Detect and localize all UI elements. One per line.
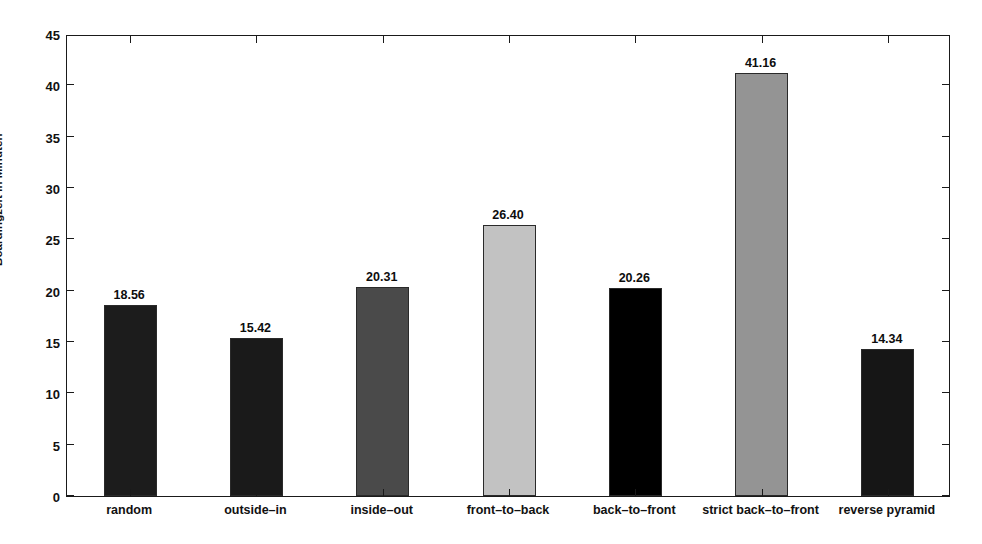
bar-value-label: 14.34	[871, 332, 902, 346]
x-axis-tick-mark	[130, 36, 131, 43]
bar-value-label: 18.56	[114, 288, 145, 302]
y-axis-tick-mark	[942, 444, 949, 445]
bar-chart-figure: Boardingzeit in Minuten 0510152025303540…	[0, 0, 982, 544]
y-axis-tick-label: 0	[20, 490, 60, 505]
y-axis-tick-mark	[67, 495, 74, 496]
bar	[735, 73, 788, 496]
y-axis-tick-mark	[942, 341, 949, 342]
y-axis-tick-mark	[942, 238, 949, 239]
y-axis-tick-label: 15	[20, 336, 60, 351]
x-axis-category-label: inside–out	[350, 503, 413, 517]
x-axis-tick-mark	[635, 36, 636, 43]
y-axis-tick-label: 30	[20, 182, 60, 197]
bar-value-label: 20.26	[619, 271, 650, 285]
y-axis-tick-mark	[942, 290, 949, 291]
y-axis-tick-mark	[942, 392, 949, 393]
y-axis-tick-label: 20	[20, 284, 60, 299]
x-axis-tick-mark	[509, 489, 510, 496]
y-axis-tick-mark	[942, 495, 949, 496]
x-axis-tick-mark	[762, 489, 763, 496]
y-axis-tick-label: 45	[20, 28, 60, 43]
bar-value-label: 20.31	[366, 270, 397, 284]
y-axis-tick-mark	[67, 392, 74, 393]
bar-value-label: 41.16	[745, 56, 776, 70]
bar	[104, 305, 157, 496]
y-axis-tick-label: 25	[20, 233, 60, 248]
x-axis-tick-mark	[256, 36, 257, 43]
x-axis-tick-mark	[130, 489, 131, 496]
x-axis-tick-mark	[509, 36, 510, 43]
x-axis-category-label: random	[106, 503, 152, 517]
bar-value-label: 15.42	[240, 321, 271, 335]
x-axis-category-label: front–to–back	[467, 503, 550, 517]
y-axis-tick-mark	[67, 444, 74, 445]
y-axis-label: Boardingzeit in Minuten	[0, 133, 4, 266]
y-axis-tick-label: 35	[20, 130, 60, 145]
x-axis-tick-mark	[888, 489, 889, 496]
y-axis-tick-label: 10	[20, 387, 60, 402]
y-axis-tick-mark	[67, 187, 74, 188]
x-axis-tick-mark	[256, 489, 257, 496]
bar-value-label: 26.40	[492, 208, 523, 222]
y-axis-tick-mark	[67, 290, 74, 291]
y-axis-tick-mark	[942, 136, 949, 137]
bar	[609, 288, 662, 496]
y-axis-tick-mark	[67, 136, 74, 137]
x-axis-tick-mark	[383, 36, 384, 43]
bar	[230, 338, 283, 496]
x-axis-tick-mark	[383, 489, 384, 496]
y-axis-tick-mark	[942, 84, 949, 85]
x-axis-category-label: strict back–to–front	[702, 503, 819, 517]
x-axis-category-label: back–to–front	[593, 503, 676, 517]
y-axis-tick-mark	[67, 238, 74, 239]
y-axis-tick-mark	[942, 187, 949, 188]
x-axis-tick-mark	[762, 36, 763, 43]
y-axis-tick-mark	[67, 84, 74, 85]
x-axis-tick-mark	[888, 36, 889, 43]
bar	[483, 225, 536, 496]
x-axis-category-label: reverse pyramid	[839, 503, 936, 517]
x-axis-category-label: outside–in	[224, 503, 287, 517]
bar	[356, 287, 409, 496]
plot-area	[66, 35, 950, 497]
bar	[861, 349, 914, 496]
y-axis-tick-label: 5	[20, 438, 60, 453]
y-axis-tick-label: 40	[20, 79, 60, 94]
y-axis-tick-mark	[67, 341, 74, 342]
x-axis-tick-mark	[635, 489, 636, 496]
